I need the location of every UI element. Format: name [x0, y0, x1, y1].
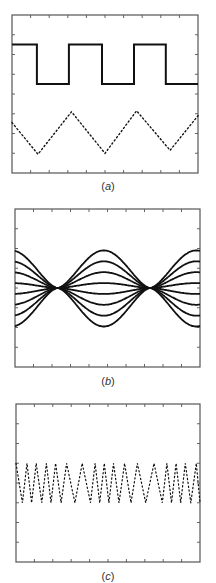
chart-panel-c: [0, 0, 216, 583]
caption-c: (c): [0, 570, 216, 582]
panel-c: (c): [0, 0, 216, 583]
caption-c-label: c: [105, 570, 111, 582]
series-zigzag: [16, 463, 200, 503]
